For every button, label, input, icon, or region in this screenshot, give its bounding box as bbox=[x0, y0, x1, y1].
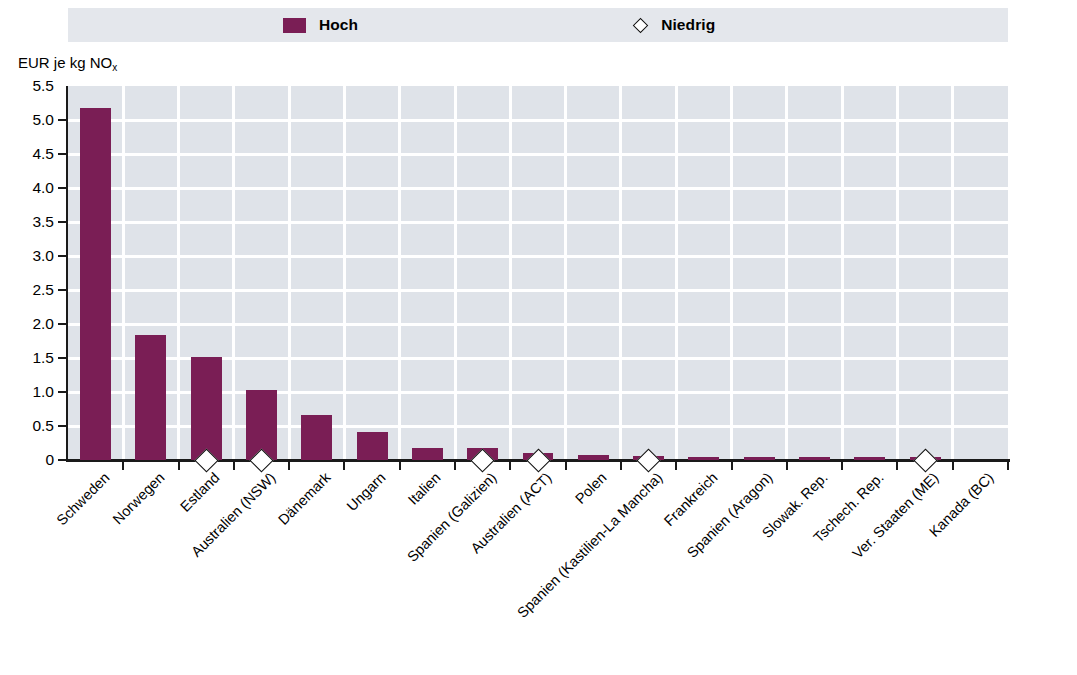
y-axis-tick bbox=[58, 187, 67, 189]
y-axis-tick-label: 5.0 bbox=[6, 112, 54, 128]
gridline-vertical bbox=[951, 86, 954, 460]
gridline-vertical bbox=[122, 86, 125, 460]
y-axis-tick bbox=[58, 459, 67, 461]
x-axis-tick-label: Polen bbox=[573, 470, 609, 506]
gridline-horizontal bbox=[68, 153, 1008, 156]
x-axis-tick bbox=[178, 461, 180, 470]
y-axis-tick-label: 4.0 bbox=[6, 180, 54, 196]
bar bbox=[80, 108, 111, 460]
y-axis-tick-label: 0 bbox=[6, 452, 54, 468]
y-axis-tick bbox=[58, 323, 67, 325]
legend-item-niedrig: Niedrig bbox=[633, 16, 715, 34]
gridline-horizontal bbox=[68, 289, 1008, 292]
y-axis-title: EUR je kg NOx bbox=[18, 54, 117, 71]
gridline-vertical bbox=[509, 86, 512, 460]
bar bbox=[135, 335, 166, 460]
bar bbox=[744, 457, 775, 460]
bar bbox=[854, 457, 885, 460]
diamond-marker-icon bbox=[633, 18, 648, 33]
x-axis-tick bbox=[343, 461, 345, 470]
bar bbox=[301, 415, 332, 460]
chart-legend: Hoch Niedrig bbox=[68, 8, 1008, 42]
gridline-horizontal bbox=[68, 119, 1008, 122]
y-axis-tick-label: 2.5 bbox=[6, 282, 54, 298]
x-axis-tick bbox=[952, 461, 954, 470]
bar bbox=[357, 432, 388, 460]
bar bbox=[799, 457, 830, 460]
bar bbox=[412, 448, 443, 460]
gridline-vertical bbox=[896, 86, 899, 460]
x-axis-tick bbox=[675, 461, 677, 470]
bar bbox=[191, 357, 222, 460]
y-axis-tick bbox=[58, 153, 67, 155]
gridline-vertical bbox=[288, 86, 291, 460]
y-axis-tick-label: 2.0 bbox=[6, 316, 54, 332]
x-axis-tick bbox=[288, 461, 290, 470]
x-axis-tick bbox=[509, 461, 511, 470]
x-axis-tick-label: Italien bbox=[406, 470, 444, 508]
y-axis-tick-label: 5.5 bbox=[6, 78, 54, 94]
x-axis-tick bbox=[896, 461, 898, 470]
legend-label-niedrig: Niedrig bbox=[661, 16, 715, 34]
x-axis-tick bbox=[454, 461, 456, 470]
y-axis-title-text: EUR je kg NO bbox=[18, 54, 112, 71]
y-axis-tick bbox=[58, 221, 67, 223]
x-axis-tick bbox=[233, 461, 235, 470]
x-axis-tick-label: Norwegen bbox=[110, 470, 167, 527]
legend-item-hoch: Hoch bbox=[283, 16, 358, 34]
y-axis-title-subscript: x bbox=[112, 62, 117, 73]
square-swatch-icon bbox=[283, 18, 306, 33]
x-axis-tick bbox=[1007, 461, 1009, 470]
gridline-vertical bbox=[398, 86, 401, 460]
x-axis-tick-label: Estland bbox=[178, 470, 222, 514]
y-axis-tick-label: 3.0 bbox=[6, 248, 54, 264]
gridline-vertical bbox=[343, 86, 346, 460]
gridline-horizontal bbox=[68, 221, 1008, 224]
legend-label-hoch: Hoch bbox=[319, 16, 358, 34]
y-axis-tick bbox=[58, 425, 67, 427]
x-axis-tick bbox=[122, 461, 124, 470]
gridline-vertical bbox=[841, 86, 844, 460]
y-axis-line bbox=[66, 86, 68, 460]
x-axis-tick bbox=[731, 461, 733, 470]
x-axis-tick-label: Frankreich bbox=[661, 470, 720, 529]
gridline-vertical bbox=[454, 86, 457, 460]
y-axis-tick-label: 0.5 bbox=[6, 418, 54, 434]
bar bbox=[578, 455, 609, 460]
y-axis-tick bbox=[58, 391, 67, 393]
x-axis-tick-label: Schweden bbox=[54, 470, 112, 528]
gridline-vertical bbox=[564, 86, 567, 460]
x-axis-tick bbox=[786, 461, 788, 470]
x-axis-tick bbox=[620, 461, 622, 470]
y-axis-tick bbox=[58, 289, 67, 291]
y-axis-tick bbox=[58, 357, 67, 359]
y-axis-tick-label: 4.5 bbox=[6, 146, 54, 162]
gridline-vertical bbox=[177, 86, 180, 460]
gridline-horizontal bbox=[68, 187, 1008, 190]
y-axis-tick bbox=[58, 255, 67, 257]
x-axis-tick bbox=[399, 461, 401, 470]
gridline-vertical bbox=[232, 86, 235, 460]
bar bbox=[688, 457, 719, 460]
x-axis-tick bbox=[565, 461, 567, 470]
y-axis-tick-label: 1.0 bbox=[6, 384, 54, 400]
y-axis-tick-label: 1.5 bbox=[6, 350, 54, 366]
x-axis-tick-label: Dänemark bbox=[276, 470, 334, 528]
y-axis-tick-label: 3.5 bbox=[6, 214, 54, 230]
x-axis-tick bbox=[841, 461, 843, 470]
y-axis-tick bbox=[58, 119, 67, 121]
gridline-vertical bbox=[730, 86, 733, 460]
gridline-horizontal bbox=[68, 323, 1008, 326]
gridline-vertical bbox=[785, 86, 788, 460]
gridline-horizontal bbox=[68, 255, 1008, 258]
x-axis-tick-label: Ungarn bbox=[344, 470, 388, 514]
gridline-vertical bbox=[619, 86, 622, 460]
gridline-vertical bbox=[675, 86, 678, 460]
